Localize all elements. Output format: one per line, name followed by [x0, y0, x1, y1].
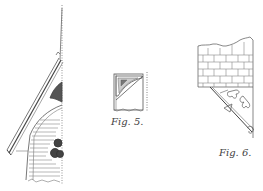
fig6-brick-bracket-drawing	[198, 37, 254, 138]
illustration-plate: Fig. 5. Fig. 6.	[0, 0, 263, 191]
eave-bracket-drawing	[7, 5, 64, 184]
fig5-caption: Fig. 5.	[111, 116, 143, 127]
fig5-bracket-drawing	[114, 72, 147, 112]
drawing-canvas	[0, 0, 263, 191]
fig6-caption: Fig. 6.	[219, 147, 251, 158]
